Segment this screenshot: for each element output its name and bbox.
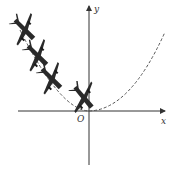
y-axis-label: y — [93, 4, 100, 14]
x-axis-label: x — [161, 116, 166, 126]
diagram-canvas: y x O — [0, 0, 173, 181]
origin-label: O — [77, 114, 85, 124]
airplane-icon — [1, 6, 45, 50]
